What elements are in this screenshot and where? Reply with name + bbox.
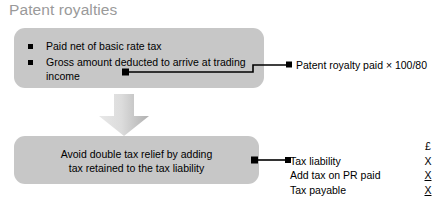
table-row: Tax liability X (290, 154, 438, 169)
tax-computation-table: £ Tax liability X Add tax on PR paid X T… (290, 139, 438, 197)
bottom-box-line-1: Avoid double tax relief by adding (14, 147, 259, 161)
table-cell-label: Tax payable (290, 183, 346, 198)
down-arrow-icon (97, 94, 151, 136)
table-cell-value: X (418, 154, 438, 169)
square-connector-marker-icon (286, 62, 292, 68)
patent-royalties-diagram: Patent royalties Paid net of basic rate … (0, 0, 444, 205)
table-row: Add tax on PR paid X (290, 168, 438, 183)
list-item: Gross amount deducted to arrive at tradi… (28, 55, 256, 83)
table-cell-label: Add tax on PR paid (290, 168, 380, 183)
page-title: Patent royalties (9, 1, 117, 19)
table-row: £ (290, 139, 438, 154)
table-cell-value: X (418, 168, 438, 183)
bottom-box-text: Avoid double tax relief by adding tax re… (14, 147, 259, 175)
table-cell-value: X (418, 183, 438, 198)
bullet-text: Gross amount deducted to arrive at tradi… (46, 55, 256, 83)
callout-gross-amount: Patent royalty paid × 100/80 (296, 59, 427, 72)
bullet-list: Paid net of basic rate tax Gross amount … (28, 39, 256, 85)
top-process-box: Paid net of basic rate tax Gross amount … (14, 28, 264, 88)
bottom-process-box: Avoid double tax relief by adding tax re… (14, 136, 259, 184)
table-cell-label: Tax liability (290, 154, 341, 169)
bottom-box-line-2: tax retained to the tax liability (14, 161, 259, 175)
list-item: Paid net of basic rate tax (28, 39, 256, 53)
currency-header: £ (418, 139, 438, 154)
square-bullet-icon (28, 44, 33, 49)
square-bullet-icon (28, 60, 33, 65)
bullet-text: Paid net of basic rate tax (46, 39, 162, 53)
table-row: Tax payable X (290, 183, 438, 198)
